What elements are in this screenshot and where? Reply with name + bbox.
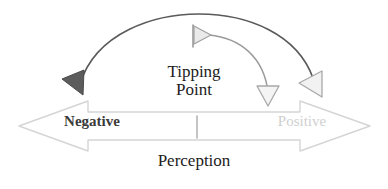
tipping-point-diagram: Tipping Point Negative Positive Percepti… — [0, 0, 388, 189]
perception-axis-label: Perception — [0, 152, 388, 170]
positive-axis-label: Positive — [246, 114, 358, 130]
negative-axis-label: Negative — [36, 114, 148, 130]
tipping-point-line-1: Tipping — [0, 63, 388, 81]
tipping-point-label: Tipping Point — [0, 63, 388, 99]
tipping-point-line-2: Point — [0, 81, 388, 99]
flag-marker-icon — [193, 25, 211, 47]
